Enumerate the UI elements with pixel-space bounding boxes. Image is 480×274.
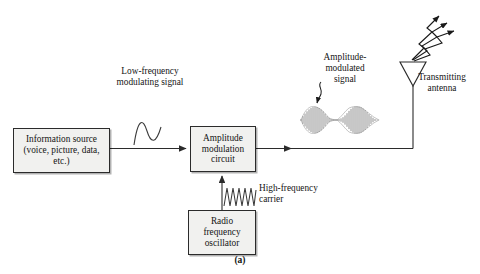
label-high-frequency-carrier: High-frequency carrier bbox=[259, 183, 347, 205]
label-transmitting-antenna: Transmitting antenna bbox=[406, 72, 478, 94]
am-transmitter-block-diagram: Information source (voice, picture, data… bbox=[0, 0, 480, 274]
radiation-arrows bbox=[412, 16, 454, 61]
output-flow-arrow bbox=[284, 145, 292, 152]
block-amplitude-modulation-circuit-label: Amplitude modulation circuit bbox=[199, 133, 247, 166]
block-information-source-label: Information source (voice, picture, data… bbox=[20, 134, 102, 167]
radiation-arrow-3 bbox=[414, 31, 454, 61]
label-low-frequency-modulating-signal: Low-frequency modulating signal bbox=[98, 66, 202, 88]
carrier-sine-waveform bbox=[224, 188, 256, 206]
am-signal-waveform bbox=[301, 106, 379, 133]
am-label-leader-arrow bbox=[317, 82, 321, 103]
block-radio-frequency-oscillator-label: Radio frequency oscillator bbox=[200, 216, 243, 249]
block-radio-frequency-oscillator: Radio frequency oscillator bbox=[188, 210, 256, 255]
label-amplitude-modulated-signal: Amplitude- modulated signal bbox=[303, 52, 387, 85]
modulating-sine-waveform bbox=[134, 123, 161, 145]
block-amplitude-modulation-circuit: Amplitude modulation circuit bbox=[190, 126, 256, 172]
figure-caption: (a) bbox=[0, 255, 480, 265]
block-information-source: Information source (voice, picture, data… bbox=[13, 128, 110, 173]
